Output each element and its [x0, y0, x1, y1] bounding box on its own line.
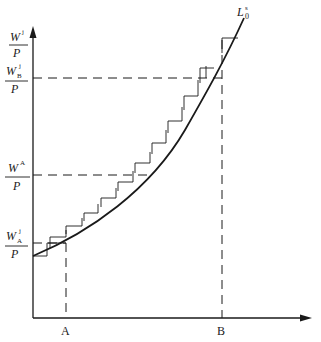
y-axis-arrow-icon: [30, 26, 37, 38]
svg-text:j: j: [21, 28, 24, 36]
svg-text:j: j: [18, 227, 21, 235]
wa-label: W A P: [5, 159, 30, 193]
svg-text:j: j: [18, 62, 21, 70]
svg-text:P: P: [12, 179, 21, 193]
svg-text:W: W: [6, 229, 17, 243]
labour-supply-diagram: L 0 s W j P W j B P W A P W j A P A B: [0, 0, 321, 342]
svg-text:P: P: [10, 247, 19, 261]
y-axis-label: W j P: [9, 28, 28, 60]
svg-text:A: A: [17, 237, 22, 245]
svg-text:A: A: [20, 159, 25, 167]
svg-text:B: B: [17, 72, 22, 80]
curve-label: L: [236, 5, 244, 19]
x-tick-a: A: [61, 324, 70, 338]
x-tick-b: B: [217, 324, 225, 338]
waj-label: W j A P: [5, 227, 28, 261]
curve-label-sub: 0: [245, 12, 249, 21]
svg-text:P: P: [12, 46, 21, 60]
staircase-steps: [33, 38, 238, 256]
supply-curve-l0s: [33, 18, 244, 256]
curve-label-sup: s: [245, 4, 248, 12]
wbj-label: W j B P: [5, 62, 28, 96]
x-axis-arrow-icon: [300, 315, 312, 322]
svg-text:W: W: [6, 64, 17, 78]
svg-text:P: P: [10, 82, 19, 96]
axes: [33, 34, 304, 318]
svg-text:W: W: [10, 30, 21, 44]
svg-text:W: W: [8, 161, 19, 175]
dashed-guides: [33, 40, 222, 318]
